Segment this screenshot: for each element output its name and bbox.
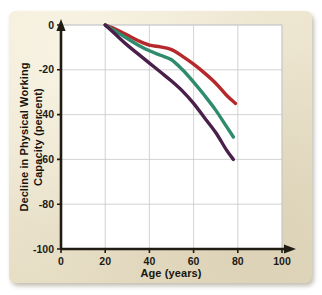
y-tick-label: -100 — [33, 243, 54, 255]
x-tick-label: 20 — [99, 255, 111, 267]
x-tick-label: 60 — [188, 255, 200, 267]
x-tick-label: 100 — [273, 255, 291, 267]
figure-root: 0-20-40-60-80-100 020406080100 Age (year… — [0, 0, 322, 295]
y-axis-title-line2: Capacity (percent) — [32, 88, 44, 186]
chart-card: 0-20-40-60-80-100 020406080100 Age (year… — [9, 11, 312, 283]
x-axis-arrow-icon — [284, 244, 296, 253]
y-axis-title-line1: Decline in Physical Working — [18, 62, 30, 211]
y-tick-label: 0 — [48, 19, 54, 31]
x-axis-tick-labels: 020406080100 — [58, 255, 291, 267]
line-chart: 0-20-40-60-80-100 020406080100 Age (year… — [9, 11, 312, 283]
x-axis-title: Age (years) — [140, 267, 201, 279]
x-tick-label: 40 — [144, 255, 156, 267]
y-tick-label: -80 — [39, 198, 54, 210]
y-tick-label: -20 — [39, 63, 54, 75]
x-tick-label: 80 — [232, 255, 244, 267]
x-tick-label: 0 — [58, 255, 64, 267]
